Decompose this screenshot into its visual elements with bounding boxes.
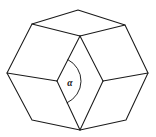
polyhedron-diagram: α	[0, 0, 156, 137]
figure-canvas: α	[0, 0, 156, 137]
angle-alpha-label: α	[67, 78, 73, 88]
